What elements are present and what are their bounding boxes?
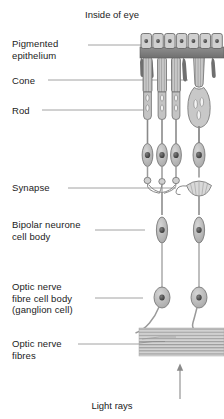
rod-spherule <box>173 177 180 183</box>
ganglion-nucleus <box>196 295 201 301</box>
rod-vacuole <box>174 105 177 111</box>
epithelium-cell <box>188 34 199 49</box>
bipolar-nucleus <box>196 227 201 233</box>
optic-nerve-fibre-band <box>139 328 224 356</box>
rod-vacuole <box>146 105 149 111</box>
cone-vacuole <box>200 98 204 107</box>
bipolar-nucleus <box>159 227 164 233</box>
rod-vacuole <box>174 95 177 101</box>
rod-nucleus <box>145 152 150 158</box>
ganglion-cell-rod <box>136 287 171 333</box>
rod-vacuole <box>146 95 149 101</box>
epithelium-nucleus <box>156 39 160 43</box>
rod-vacuole <box>160 105 163 111</box>
rod-cell <box>142 58 159 193</box>
retina-diagram-page: Inside of eye <box>0 0 224 419</box>
epithelium-nucleus <box>180 39 184 43</box>
label-rod: Rod <box>12 105 30 117</box>
cone-nucleus <box>196 152 202 159</box>
epithelium-cell <box>176 34 187 49</box>
epithelium-nucleus <box>168 39 172 43</box>
rod-cell <box>157 58 168 193</box>
epithelium-cells <box>141 34 222 49</box>
epithelium-nucleus <box>203 39 207 43</box>
epithelium-nucleus <box>144 39 148 43</box>
rod-nucleus <box>173 152 178 158</box>
epithelium-cell <box>200 34 211 49</box>
label-synapse: Synapse <box>12 182 50 194</box>
rod-nucleus <box>159 152 164 158</box>
rod-outer-segment <box>172 58 181 92</box>
label-optic-nerve-fibre-cell-body: Optic nerve fibre cell body (ganglion ce… <box>12 281 73 316</box>
epithelium-cell <box>153 34 164 49</box>
cone-inner-segment <box>188 88 210 128</box>
cone-vacuole <box>194 100 198 109</box>
rod-spherule <box>144 177 151 183</box>
bipolar-neurone-cone <box>193 196 204 288</box>
label-light-rays: Light rays <box>0 400 224 411</box>
cone-cell <box>176 58 212 196</box>
label-pigmented-epithelium: Pigmented epithelium <box>12 38 58 61</box>
ganglion-cell-cone <box>191 287 207 331</box>
rod-vacuole <box>160 95 163 101</box>
cone-outer-segment <box>194 58 205 87</box>
label-bipolar-neurone-cell-body: Bipolar neurone cell body <box>12 219 81 242</box>
cone-vacuole <box>197 111 201 120</box>
ganglion-nucleus <box>159 295 164 301</box>
epithelium-nucleus <box>215 39 219 43</box>
label-optic-nerve-fibres: Optic nerve fibres <box>12 338 62 361</box>
epithelium-cell <box>212 34 223 49</box>
rod-outer-segment <box>143 58 152 92</box>
rod-outer-segment <box>158 58 167 92</box>
epithelium-cell <box>165 34 176 49</box>
bipolar-neurone-rod <box>149 184 176 289</box>
pigmented-epithelium-layer <box>140 34 224 82</box>
epithelium-cell <box>141 34 152 49</box>
ganglion-axon <box>193 308 197 331</box>
label-cone: Cone <box>12 75 35 87</box>
epithelium-nucleus <box>192 39 196 43</box>
cone-horizontal-process <box>176 186 187 195</box>
light-rays-arrow <box>177 364 183 400</box>
